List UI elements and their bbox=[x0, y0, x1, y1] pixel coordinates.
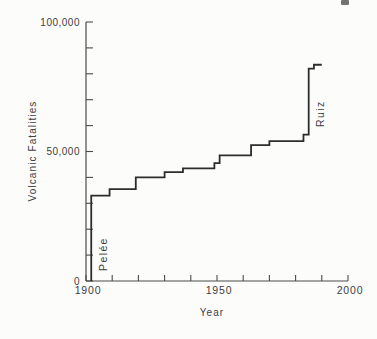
y-tick-label: 100,000 bbox=[40, 17, 80, 28]
x-axis-title: Year bbox=[200, 307, 225, 318]
y-tick-label: 50,000 bbox=[46, 146, 80, 157]
x-tick-label: 1950 bbox=[206, 284, 233, 296]
scanned-figure-page: 050,000100,000190019502000Volcanic Fatal… bbox=[0, 0, 377, 339]
x-tick-label: 1900 bbox=[75, 284, 102, 296]
x-tick-label: 2000 bbox=[337, 284, 364, 296]
scan-artifact bbox=[341, 0, 349, 5]
y-axis-title: Volcanic Fatalities bbox=[27, 101, 38, 202]
eruption-label-ruiz: Ruiz bbox=[314, 100, 326, 127]
eruption-label-pelee: Pelée bbox=[97, 237, 109, 271]
volcanic-fatalities-chart: 050,000100,000190019502000Volcanic Fatal… bbox=[0, 0, 377, 339]
cumulative-fatalities-line bbox=[91, 65, 322, 281]
